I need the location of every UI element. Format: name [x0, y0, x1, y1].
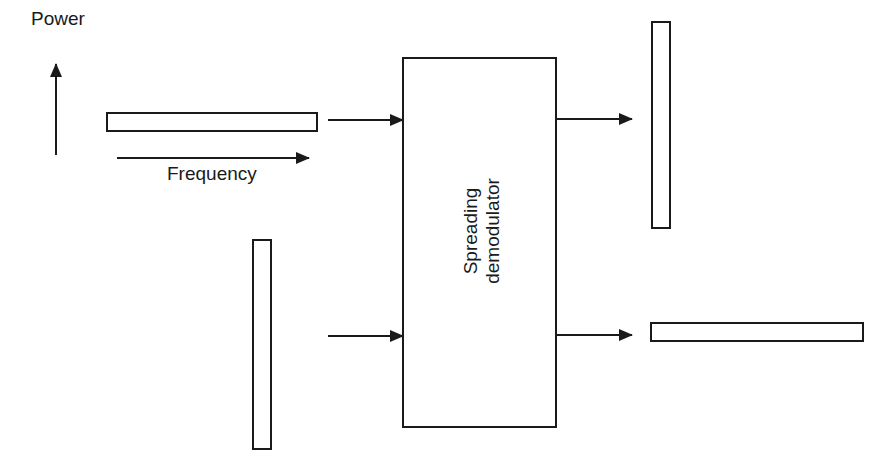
block-label-line1: Spreading [460, 121, 482, 341]
spreading-demodulator-block: Spreading demodulator [402, 57, 557, 428]
power-label: Power [31, 8, 85, 30]
spread-interference-output-spectrum [650, 322, 864, 342]
block-label: Spreading demodulator [460, 121, 504, 341]
wideband-input-spectrum [106, 112, 318, 132]
narrowband-input-spectrum [252, 239, 272, 450]
block-label-line2: demodulator [482, 121, 504, 341]
despread-output-spectrum [651, 21, 671, 229]
frequency-label: Frequency [167, 163, 257, 185]
